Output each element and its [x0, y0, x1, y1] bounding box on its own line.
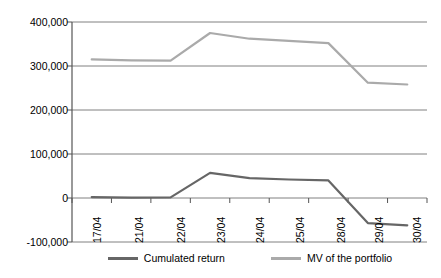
x-tick-label: 23/04: [216, 217, 227, 243]
legend-swatch-icon: [271, 257, 301, 260]
x-tick-label: 24/04: [255, 217, 266, 243]
legend-swatch-icon: [108, 257, 138, 260]
legend-label: Cumulated return: [144, 252, 225, 264]
chart-container: 400,000 300,000 200,000 100,000 0 -100,0…: [0, 0, 441, 278]
legend-entry-cumulated-return: Cumulated return: [108, 252, 225, 264]
x-tick-label: 25/04: [295, 217, 306, 243]
x-tick-label: 29/04: [374, 217, 385, 243]
chart-legend: Cumulated return MV of the portfolio: [72, 248, 428, 268]
legend-label: MV of the portfolio: [307, 252, 392, 264]
x-axis-labels: 17/04 21/04 22/04 23/04 24/04 25/04 28/0…: [0, 0, 441, 278]
x-tick-label: 21/04: [134, 217, 145, 243]
x-tick-label: 28/04: [336, 217, 347, 243]
x-tick-label: 22/04: [176, 217, 187, 243]
legend-entry-mv-of-the-portfolio: MV of the portfolio: [271, 252, 392, 264]
x-tick-label: 17/04: [92, 217, 103, 243]
x-tick-label: 30/04: [412, 217, 423, 243]
